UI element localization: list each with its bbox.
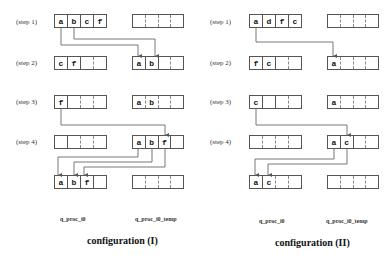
transfer-arrows bbox=[0, 0, 391, 255]
configuration-title: configuration (I) bbox=[87, 235, 158, 246]
queue-cell bbox=[288, 136, 301, 148]
arrow-b bbox=[74, 28, 155, 56]
queue-cell bbox=[145, 176, 158, 188]
queue-cell bbox=[328, 176, 340, 188]
queue-cell: c bbox=[262, 176, 275, 188]
arrow-f bbox=[61, 109, 165, 135]
queue-cell: d bbox=[262, 15, 275, 27]
queue-cell bbox=[55, 136, 67, 148]
queue-cell bbox=[365, 136, 378, 148]
column-label-q-proc-i0-temp: q_proc_i0_temp bbox=[326, 218, 368, 224]
queue-cell: a bbox=[55, 15, 67, 27]
queue-cell bbox=[353, 176, 366, 188]
queue-cell bbox=[275, 176, 288, 188]
queue-cell bbox=[93, 136, 106, 148]
queue-cell bbox=[170, 57, 183, 69]
queue-box-q-proc-i0-temp: a bbox=[327, 95, 379, 109]
queue-cell bbox=[262, 136, 275, 148]
queue-box-q-proc-i0: a b c f bbox=[54, 14, 107, 28]
step-label: (step 2) bbox=[16, 59, 37, 67]
queue-cell: a bbox=[133, 136, 145, 148]
queue-box-q-proc-i0: c f bbox=[54, 56, 107, 70]
queue-cell bbox=[353, 136, 366, 148]
queue-cell bbox=[158, 15, 171, 27]
arrow-a-back bbox=[58, 149, 138, 175]
queue-cell bbox=[353, 57, 366, 69]
queue-cell bbox=[275, 136, 288, 148]
queue-box-q-proc-i0: f bbox=[54, 95, 107, 109]
queue-cell bbox=[133, 15, 145, 27]
queue-cell bbox=[365, 15, 378, 27]
queue-cell bbox=[93, 176, 106, 188]
queue-cell bbox=[365, 176, 378, 188]
queue-box-q-proc-i0: a d f c bbox=[249, 14, 302, 28]
column-label-q-proc-i0: q_proc_i0 bbox=[259, 218, 285, 224]
queue-cell: f bbox=[250, 57, 262, 69]
step-label: (step 3) bbox=[16, 98, 37, 106]
queue-box-q-proc-i0: f c bbox=[249, 56, 302, 70]
step-label: (step 1) bbox=[16, 18, 37, 26]
queue-cell: c bbox=[55, 57, 67, 69]
queue-cell bbox=[340, 176, 353, 188]
queue-cell: b bbox=[145, 136, 158, 148]
queue-cell bbox=[158, 176, 171, 188]
queue-cell bbox=[67, 96, 80, 108]
queue-cell: b bbox=[67, 176, 80, 188]
queue-cell bbox=[365, 57, 378, 69]
queue-cell: f bbox=[80, 176, 93, 188]
arrow-a-back bbox=[255, 149, 334, 175]
queue-box-q-proc-i0: a c bbox=[249, 175, 302, 189]
queue-cell: f bbox=[67, 57, 80, 69]
queue-box-q-proc-i0-temp bbox=[132, 175, 184, 189]
queue-cell bbox=[328, 15, 340, 27]
queue-cell: c bbox=[250, 96, 262, 108]
queue-cell bbox=[170, 15, 183, 27]
queue-cell bbox=[353, 96, 366, 108]
queue-cell bbox=[288, 176, 301, 188]
queue-cell: b bbox=[67, 15, 80, 27]
queue-cell: f bbox=[275, 15, 288, 27]
queue-cell: f bbox=[158, 136, 171, 148]
step-label: (step 2) bbox=[210, 59, 231, 67]
queue-cell bbox=[353, 15, 366, 27]
queue-cell: a bbox=[133, 57, 145, 69]
arrow-b-back bbox=[74, 149, 152, 175]
queue-cell bbox=[158, 57, 171, 69]
queue-box-q-proc-i0: c bbox=[249, 95, 302, 109]
queue-cell bbox=[288, 96, 301, 108]
queue-cell bbox=[170, 176, 183, 188]
queue-cell: a bbox=[55, 176, 67, 188]
queue-box-q-proc-i0-temp: a b bbox=[132, 95, 184, 109]
queue-cell bbox=[145, 15, 158, 27]
queue-box-q-proc-i0-temp bbox=[132, 14, 184, 28]
queue-cell: c bbox=[288, 15, 301, 27]
step-label: (step 1) bbox=[210, 18, 231, 26]
queue-cell bbox=[80, 136, 93, 148]
queue-cell: c bbox=[262, 57, 275, 69]
queue-cell bbox=[365, 96, 378, 108]
queue-box-q-proc-i0: a b f bbox=[54, 175, 107, 189]
step-label: (step 4) bbox=[210, 138, 231, 146]
queue-box-q-proc-i0-temp: a bbox=[327, 56, 379, 70]
queue-box-q-proc-i0-temp bbox=[327, 14, 379, 28]
column-label-q-proc-i0-temp: q_proc_i0_temp bbox=[135, 216, 177, 222]
queue-cell bbox=[340, 57, 353, 69]
queue-cell: a bbox=[328, 96, 340, 108]
queue-cell: a bbox=[133, 96, 145, 108]
arrow-c-back bbox=[268, 149, 347, 175]
queue-cell: b bbox=[145, 57, 158, 69]
queue-box-q-proc-i0-temp bbox=[327, 175, 379, 189]
queue-cell bbox=[288, 57, 301, 69]
queue-cell bbox=[262, 96, 275, 108]
queue-cell bbox=[275, 96, 288, 108]
queue-cell bbox=[275, 57, 288, 69]
queue-cell bbox=[93, 96, 106, 108]
queue-box-q-proc-i0-temp: a b f bbox=[132, 135, 184, 149]
queue-cell: c bbox=[340, 136, 353, 148]
arrow-a bbox=[61, 28, 138, 56]
queue-cell bbox=[170, 136, 183, 148]
queue-cell: a bbox=[328, 57, 340, 69]
queue-cell bbox=[93, 57, 106, 69]
configuration-title: configuration (II) bbox=[275, 237, 350, 248]
queue-cell: a bbox=[250, 176, 262, 188]
